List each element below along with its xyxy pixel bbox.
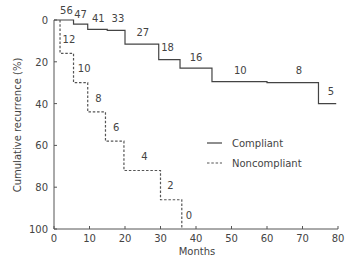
legend: Compliant Noncompliant — [207, 138, 302, 169]
y-tick-label: 80 — [35, 182, 48, 193]
x-tick-label: 20 — [119, 233, 132, 244]
y-tick-label: 0 — [42, 15, 48, 26]
at-risk-label-compliant: 10 — [234, 65, 247, 76]
at-risk-label-noncompliant: 12 — [63, 34, 76, 45]
at-risk-label-compliant: 47 — [74, 9, 87, 20]
cumulative-recurrence-chart: 01020304050607080 020406080100 Months Cu… — [0, 0, 358, 271]
at-risk-label-compliant: 16 — [190, 52, 203, 63]
x-tick-label: 40 — [190, 233, 203, 244]
at-risk-label-compliant: 8 — [296, 65, 302, 76]
x-tick-label: 80 — [332, 233, 345, 244]
legend-label-compliant: Compliant — [232, 138, 283, 149]
at-risk-label-compliant: 27 — [136, 27, 149, 38]
y-tick-label: 20 — [35, 57, 48, 68]
at-risk-label-noncompliant: 8 — [95, 93, 101, 104]
at-risk-label-compliant: 5 — [328, 86, 334, 97]
at-risk-label-noncompliant: 2 — [167, 180, 173, 191]
x-tick-label: 60 — [261, 233, 274, 244]
y-tick-label: 60 — [35, 140, 48, 151]
at-risk-label-compliant: 18 — [161, 42, 174, 53]
at-risk-label-noncompliant: 4 — [141, 151, 147, 162]
x-tick-label: 70 — [296, 233, 309, 244]
x-tick-label: 30 — [154, 233, 167, 244]
y-axis-ticks: 020406080100 — [29, 15, 57, 235]
y-tick-label: 100 — [29, 224, 48, 235]
legend-label-noncompliant: Noncompliant — [232, 158, 302, 169]
x-tick-label: 50 — [225, 233, 238, 244]
x-tick-label: 0 — [51, 233, 57, 244]
y-tick-label: 40 — [35, 99, 48, 110]
at-risk-label-noncompliant: 10 — [78, 63, 91, 74]
x-axis-title: Months — [179, 246, 216, 257]
x-tick-label: 10 — [83, 233, 96, 244]
at-risk-label-noncompliant: 0 — [186, 210, 192, 221]
at-risk-label-compliant: 56 — [60, 5, 73, 16]
at-risk-label-compliant: 33 — [112, 13, 125, 24]
at-risk-labels: 564741332718161085121086420 — [60, 5, 334, 221]
y-axis-title: Cumulative recurrence (%) — [12, 58, 23, 193]
at-risk-label-compliant: 41 — [92, 13, 105, 24]
at-risk-label-noncompliant: 6 — [113, 122, 119, 133]
chart-canvas: 01020304050607080 020406080100 Months Cu… — [0, 0, 358, 271]
